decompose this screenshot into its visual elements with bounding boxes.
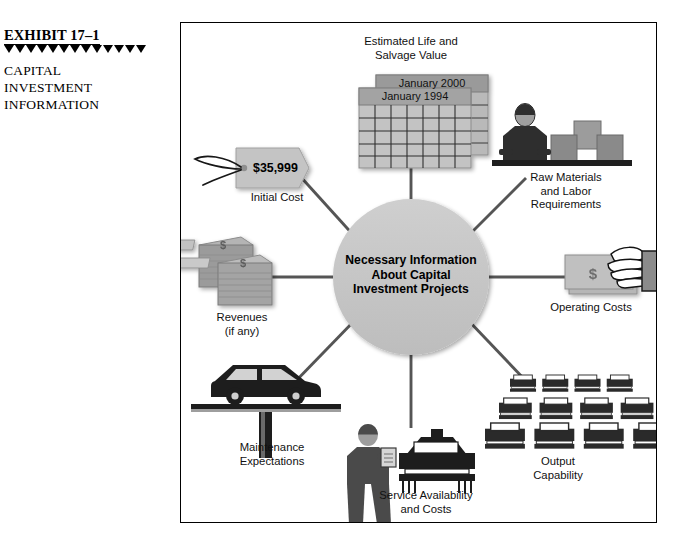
exhibit-title-line-3: INFORMATION — [4, 96, 174, 113]
label-raw-materials: Raw Materials and Labor Requirements — [501, 171, 631, 212]
label-revenues-line-1: Revenues — [187, 311, 297, 325]
exhibit-caption: EXHIBIT 17–1 CAPITAL INVESTMENT INFO — [4, 26, 174, 113]
label-service-availability-line-1: Service Availability — [341, 489, 511, 503]
label-maintenance-line-2: Expectations — [206, 455, 338, 469]
exhibit-number: EXHIBIT 17–1 — [4, 27, 100, 45]
label-maintenance: Maintenance Expectations — [206, 441, 338, 468]
calendar-front-month: January 1994 — [359, 90, 471, 102]
exhibit-title-line-2: INVESTMENT — [4, 79, 174, 96]
label-operating-costs: Operating Costs — [526, 301, 656, 315]
worker-boxes-icon — [492, 104, 632, 167]
label-estimated-life-line-1: Estimated Life and — [323, 35, 499, 49]
label-service-availability-line-2: and Costs — [341, 503, 511, 517]
calendar-back-month: January 2000 — [376, 77, 488, 89]
label-operating-costs-line-1: Operating Costs — [526, 301, 656, 315]
hub-label-line-1: Necessary Information — [331, 253, 491, 268]
svg-text:$: $ — [240, 257, 246, 269]
label-raw-materials-line-3: Requirements — [501, 198, 631, 212]
money-stacks-icon: $ $ — [181, 237, 272, 305]
exhibit-title: CAPITAL INVESTMENT INFORMATION — [4, 62, 174, 113]
svg-text:$: $ — [220, 239, 226, 251]
label-raw-materials-line-2: and Labor — [501, 185, 631, 199]
label-service-availability: Service Availability and Costs — [341, 489, 511, 516]
initial-cost-amount: $35,999 — [253, 161, 298, 175]
diagram-stage: $ $ — [181, 23, 656, 522]
label-estimated-life-line-2: Salvage Value — [323, 49, 499, 63]
label-output-capability-line-2: Capability — [499, 469, 617, 483]
label-initial-cost-line-1: Initial Cost — [217, 191, 337, 205]
label-initial-cost: Initial Cost — [217, 191, 337, 205]
svg-text:$: $ — [589, 265, 598, 282]
zigzag-rule-icon — [4, 45, 156, 53]
label-output-capability: Output Capability — [499, 455, 617, 482]
label-maintenance-line-1: Maintenance — [206, 441, 338, 455]
hub-label-line-2: About Capital — [331, 268, 491, 283]
figure-frame: $ $ — [180, 22, 657, 523]
label-revenues-line-2: (if any) — [187, 325, 297, 339]
exhibit-title-line-1: CAPITAL — [4, 62, 174, 79]
hub-label-line-3: Investment Projects — [331, 282, 491, 297]
label-revenues: Revenues (if any) — [187, 311, 297, 338]
hub-label: Necessary Information About Capital Inve… — [331, 253, 491, 297]
hand-cash-icon: $ — [565, 247, 656, 294]
exhibit-page: EXHIBIT 17–1 CAPITAL INVESTMENT INFO — [0, 0, 696, 558]
car-fleet-icon — [485, 375, 656, 449]
label-estimated-life: Estimated Life and Salvage Value — [323, 35, 499, 62]
label-output-capability-line-1: Output — [499, 455, 617, 469]
label-raw-materials-line-1: Raw Materials — [501, 171, 631, 185]
